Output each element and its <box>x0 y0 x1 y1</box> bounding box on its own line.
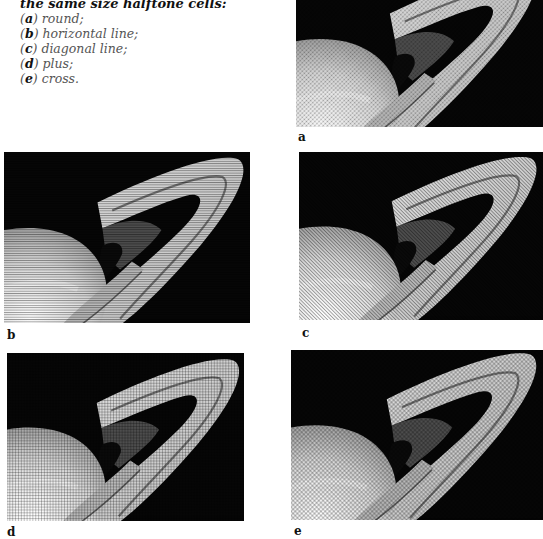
figure-label-e: e <box>294 524 302 538</box>
figure-label-c: c <box>302 326 309 340</box>
saturn-image-round <box>296 0 543 127</box>
caption-item-b: (b) horizontal line; <box>20 26 227 41</box>
saturn-image-diagonal-line <box>299 152 543 320</box>
halftone-figure-d <box>7 353 244 521</box>
saturn-image-cross <box>291 350 543 520</box>
figure-label-b: b <box>7 328 15 342</box>
halftone-figure-a <box>296 0 543 127</box>
caption-item-d: (d) plus; <box>20 56 227 71</box>
caption-item-e: (e) cross. <box>20 71 227 86</box>
caption-item-c: (c) diagonal line; <box>20 41 227 56</box>
caption-item-a: (a) round; <box>20 11 227 26</box>
caption-heading: the same size halftone cells: <box>20 0 227 11</box>
halftone-figure-c <box>299 152 543 320</box>
halftone-figure-e <box>291 350 543 520</box>
figure-label-a: a <box>298 130 306 144</box>
saturn-image-plus <box>7 353 244 521</box>
halftone-figure-b <box>4 152 250 323</box>
saturn-image-horizontal-line <box>4 152 250 323</box>
figure-label-d: d <box>7 525 15 539</box>
figure-caption: the same size halftone cells: (a) round;… <box>20 0 227 86</box>
